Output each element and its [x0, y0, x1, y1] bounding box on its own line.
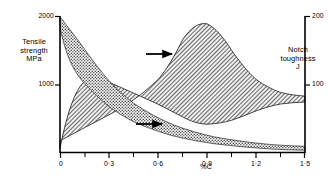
y-axis-right-label-100: 100 — [312, 80, 328, 87]
y-axis-right-label-200: 200 — [312, 12, 328, 19]
x-axis-label-1-2: 1·2 — [245, 160, 267, 167]
y-axis-left-title: Tensile strength MPa — [10, 38, 58, 64]
y-axis-right-title: Notch toughness J — [272, 46, 324, 72]
x-axis-label-0-9: 0·9 — [196, 160, 218, 167]
y-axis-left-label-1000: 1000 — [16, 80, 54, 87]
x-axis-label-0: 0 — [50, 160, 72, 167]
chart-figure: Tensile strength MPa Notch toughness J %… — [0, 0, 328, 178]
y-axis-left-label-2000: 2000 — [16, 12, 54, 19]
x-axis-label-0-6: 0·6 — [147, 160, 169, 167]
x-axis-label-1-5: 1·5 — [294, 160, 316, 167]
y-axis-left — [55, 16, 60, 153]
chart-plot-area — [0, 0, 328, 178]
y-axis-right — [305, 16, 310, 153]
x-axis-label-0-3: 0·3 — [98, 160, 120, 167]
x-axis — [60, 153, 305, 159]
